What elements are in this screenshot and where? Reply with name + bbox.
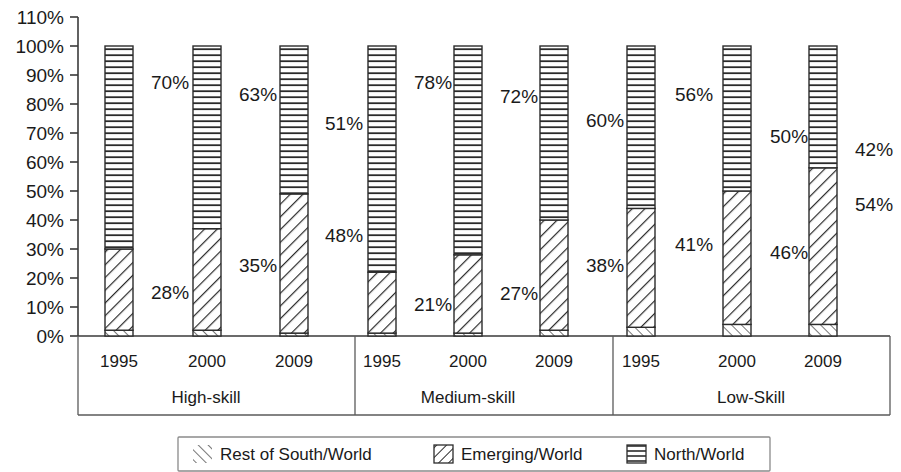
bar-segment [723,191,751,324]
bar-segment [540,220,568,330]
bar-segment [280,194,308,333]
bar-segment [280,46,308,194]
data-value-label: 41% [675,234,713,255]
data-value-label: 48% [325,225,363,246]
bar-segment [105,46,133,249]
y-tick-label: 90% [26,65,64,86]
y-tick-label: 60% [26,152,64,173]
data-value-label: 50% [770,126,808,147]
bar-segment [627,208,655,327]
x-tick-label: 2000 [718,352,756,371]
data-value-label: 46% [770,242,808,263]
x-group-label: High-skill [172,388,241,407]
data-value-label: 21% [414,294,452,315]
stacked-bar-chart: 110%100%90%80%70%60%50%40%30%20%10%0% 70… [0,0,901,472]
category-tick-labels: 199520002009199520002009199520002009 [100,352,842,371]
data-value-label: 42% [855,139,893,160]
bar-segment [105,330,133,336]
stacked-bar [368,46,396,336]
legend-swatch-diagonal-hatch-swatch [434,445,453,463]
bar-segment [809,324,837,336]
bar-segment [627,327,655,336]
x-group-label: Low-Skill [717,388,785,407]
stacked-bar [454,46,482,336]
stacked-bar [540,46,568,336]
data-value-label: 27% [500,283,538,304]
bar-segment [540,46,568,220]
data-value-label: 78% [414,72,452,93]
y-tick-label: 100% [15,36,64,57]
y-tick-label: 50% [26,181,64,202]
bar-segment [193,229,221,331]
bar-segment [809,46,837,168]
bar-segment [627,46,655,208]
stacked-bar [105,46,133,336]
bar-segment [723,324,751,336]
x-group-label: Medium-skill [421,388,515,407]
legend-swatch-thin-diagonal-swatch [193,445,212,463]
legend-label: Rest of South/World [220,445,372,464]
stacked-bar [627,46,655,336]
legend-items: Rest of South/WorldEmerging/WorldNorth/W… [193,445,744,464]
data-value-label: 35% [239,255,277,276]
y-tick-label: 80% [26,94,64,115]
data-value-label: 38% [586,255,624,276]
legend-swatch-horizontal-lines-swatch [627,445,646,463]
legend-label: Emerging/World [461,445,583,464]
bar-segment [454,46,482,255]
x-tick-label: 2009 [275,352,313,371]
bar-segment [540,330,568,336]
x-tick-label: 2000 [188,352,226,371]
bar-segment [105,249,133,330]
x-tick-label: 2000 [449,352,487,371]
bar-segment [723,46,751,191]
data-value-label: 28% [151,282,189,303]
data-value-label: 63% [239,84,277,105]
y-tick-label: 110% [17,7,64,28]
data-value-label: 70% [151,72,189,93]
chart-canvas: 110%100%90%80%70%60%50%40%30%20%10%0% 70… [0,0,901,472]
data-value-label: 51% [325,113,363,134]
bar-segment [193,330,221,336]
data-value-label: 56% [675,84,713,105]
stacked-bar [723,46,751,336]
x-tick-label: 2009 [804,352,842,371]
data-value-label: 54% [855,194,893,215]
bar-segment [368,46,396,272]
data-value-label: 72% [500,86,538,107]
chart-legend: Rest of South/WorldEmerging/WorldNorth/W… [178,437,770,471]
y-tick-label: 0% [37,326,65,347]
bar-segment [454,255,482,333]
y-tick-label: 40% [26,210,64,231]
legend-label: North/World [654,445,744,464]
bar-segment [368,272,396,333]
bar-segment [193,46,221,229]
stacked-bar [280,46,308,336]
x-tick-label: 1995 [100,352,138,371]
x-tick-label: 2009 [535,352,573,371]
y-tick-label: 70% [26,123,64,144]
y-tick-label: 30% [26,239,64,260]
stacked-bar [809,46,837,336]
stacked-bar [193,46,221,336]
y-tick-label: 20% [26,268,64,289]
data-value-label: 60% [586,110,624,131]
bars-layer [105,46,837,336]
x-tick-label: 1995 [363,352,401,371]
x-tick-label: 1995 [622,352,660,371]
bar-segment [809,168,837,325]
y-tick-label: 10% [26,297,64,318]
